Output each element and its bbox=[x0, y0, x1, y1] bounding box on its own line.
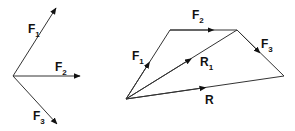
label-f3-right: F3 bbox=[261, 37, 273, 54]
label-r1: R1 bbox=[200, 55, 214, 72]
arrowhead-f1-right bbox=[126, 65, 148, 100]
force-diagram: F1 F2 F3 F1 F2 F3 R1 R bbox=[0, 0, 295, 131]
label-f2-left: F2 bbox=[55, 60, 67, 77]
arrowhead-r1 bbox=[126, 60, 189, 99]
right-diagram: F1 F2 F3 R1 R bbox=[126, 8, 284, 107]
label-f2-right: F2 bbox=[192, 8, 204, 25]
label-f1-left: F1 bbox=[28, 22, 40, 39]
left-diagram: F1 F2 F3 bbox=[13, 8, 80, 126]
label-f3-left: F3 bbox=[33, 109, 45, 126]
label-f1-right: F1 bbox=[132, 49, 144, 66]
arrowhead-f3-right bbox=[237, 30, 258, 51]
arrowhead-r bbox=[126, 88, 203, 99]
vector-f1-left bbox=[13, 8, 56, 76]
label-r: R bbox=[205, 93, 214, 107]
